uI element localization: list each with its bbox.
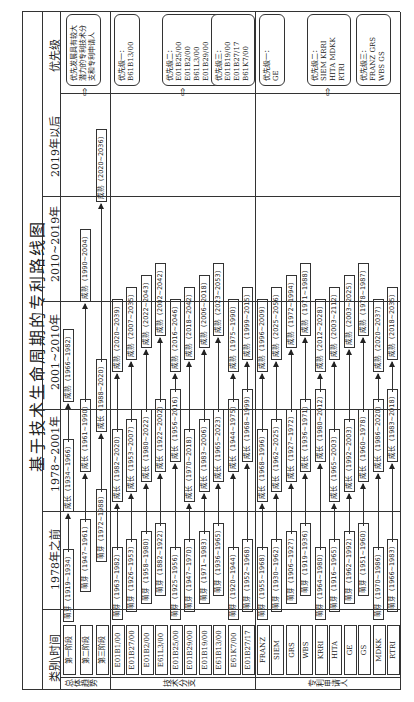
priority-arrow-icon: ⇨ — [80, 88, 90, 96]
row-label-branches: E01B2/00 — [141, 625, 154, 675]
row-label-branches: E01B1/00 — [112, 625, 125, 675]
stage-arrow — [291, 350, 292, 412]
row-label-applicants: KRRI — [315, 625, 328, 675]
section-label-branches: 技术分支 — [163, 678, 195, 689]
stage-box: 成长（1968~1996） — [257, 429, 268, 502]
row-label-applicants: RTRI — [387, 625, 400, 675]
stage-arrow — [233, 374, 234, 402]
stage-box: 成熟（1975~1990） — [228, 299, 239, 372]
stage-arrow — [305, 338, 306, 402]
patent-roadmap-diagram: 基于技术生命周期的专利路线图类别\时间1978年之前1978~2001年2001… — [0, 0, 414, 702]
stage-box: 成长（1980~2012） — [315, 389, 326, 462]
stage-box: 成长（1988~2020） — [96, 359, 107, 432]
section-label-applicants: 专利申请人 — [308, 678, 348, 689]
stage-box: 成长（1927~1972） — [286, 409, 297, 482]
stage-arrow — [175, 374, 176, 392]
stage-arrow — [276, 362, 277, 422]
priority-box-1: 优先级一： B61B13/00 — [114, 14, 140, 86]
stage-arrow — [349, 350, 350, 422]
stage-arrow — [218, 338, 219, 412]
row-label-applicants: GRS — [286, 625, 299, 675]
stage-box: 成长（1922~2002） — [155, 399, 166, 472]
stage-box: 成熟（2020~2039） — [112, 299, 123, 372]
section-label-overall: 总体趋势 — [65, 678, 97, 689]
stage-box: 萌芽（1952~1968） — [242, 539, 253, 612]
stage-box: 成熟（2016~2046） — [170, 299, 181, 372]
stage-box: 成熟（2022~2043） — [141, 275, 152, 348]
stage-box: 成长（1962~2025） — [271, 419, 282, 492]
stage-box: 成长（1992~2003） — [344, 419, 355, 492]
row-label-branches: E01B19/00 — [199, 625, 212, 675]
row-label-branches: E61K7/00 — [228, 625, 241, 675]
stage-box: 成长（1961~1990） — [80, 399, 91, 472]
stage-box: 成长（1934~1966） — [63, 439, 74, 512]
stage-box: 萌芽（1906~1927） — [286, 531, 297, 604]
stage-box: 成熟（1971~1988） — [300, 263, 311, 336]
priority-arrow-icon: ⇨ — [178, 88, 188, 96]
stage-box: 成长（1968~1999） — [242, 389, 253, 462]
stage-arrow — [146, 484, 147, 534]
stage-arrow — [247, 362, 248, 392]
priority-box-2: 优先级二： SIEM KRRI HITA MDKK RTRI — [307, 14, 351, 86]
stage-box: 成熟（2020~2037） — [373, 299, 384, 372]
stage-box: 萌芽（1916~1965） — [329, 539, 340, 612]
stage-box: 萌芽（1919~1936） — [300, 523, 311, 596]
stage-box: 萌芽（1947~1970） — [184, 539, 195, 612]
stage-arrow — [378, 374, 379, 402]
stage-box: 成熟（2023~2053） — [213, 263, 224, 336]
stage-box: 成长（1983~2018） — [387, 389, 398, 462]
row-label-branches: E01B27/00 — [126, 625, 139, 675]
stage-box: 成熟（1966~1982） — [63, 329, 74, 402]
stage-box: 萌芽（1951~1960） — [358, 523, 369, 596]
stage-box: 成长（1956~2016） — [170, 389, 181, 462]
stage-arrow — [349, 494, 350, 534]
stage-box: 萌芽（1962~1992） — [344, 531, 355, 604]
stage-arrow — [320, 374, 321, 392]
stage-arrow — [262, 374, 263, 432]
priority-arrow-icon: ⇨ — [323, 88, 333, 96]
stage-box: 成长（1965~2023） — [213, 409, 224, 482]
stage-arrow — [392, 464, 393, 542]
stage-arrow — [305, 474, 306, 526]
stage-box: 成熟（2012~2028） — [315, 299, 326, 372]
stage-arrow — [291, 484, 292, 534]
period-divider — [42, 409, 400, 410]
stage-box: 成长（1982~2020） — [112, 429, 123, 502]
period-divider — [42, 511, 400, 512]
stage-arrow — [85, 304, 86, 402]
row-label-branches: E61B13/00 — [213, 625, 226, 675]
row-label-branches: E61L3/00 — [155, 625, 168, 675]
stage-arrow — [233, 474, 234, 550]
stage-arrow — [378, 474, 379, 550]
priority-box-1: 优先级一： GE — [259, 14, 285, 86]
row-label-applicants: HITA — [329, 625, 342, 675]
stage-box: 成熟（1972~1994） — [286, 275, 297, 348]
stage-arrow — [204, 494, 205, 534]
stage-box: 成熟（1978~1987） — [358, 263, 369, 336]
frame-top — [22, 12, 23, 690]
stage-box: 成熟（1990~2004） — [80, 229, 91, 302]
stage-arrow — [247, 464, 248, 542]
stage-box: 成长（1936~1971） — [300, 399, 311, 472]
period-divider — [42, 609, 400, 610]
stage-box: 萌芽（1958~1980） — [141, 531, 152, 604]
priority-box: 优先发展具有较大潜力的专利技术分支和专利申请人 — [66, 14, 101, 86]
frame-bottom — [400, 12, 401, 690]
stage-box: 萌芽（1966~1983） — [387, 539, 398, 612]
stage-box: 成熟（2002~2042） — [155, 263, 166, 336]
stage-box: 成长（1960~1978） — [358, 409, 369, 482]
frame-right — [22, 11, 400, 12]
stage-arrow — [392, 362, 393, 392]
stage-box: 成熟（2003~2112） — [329, 287, 340, 360]
stage-box: 成熟（2025~2056） — [271, 287, 282, 360]
stage-box: 成熟（2003~2025） — [344, 275, 355, 348]
stage-box: 成长（1986~2020） — [373, 399, 384, 472]
stage-box: 萌芽（1930~1962） — [271, 539, 282, 612]
row-label-branches: E01B29/00 — [184, 625, 197, 675]
row-label-applicants: MDKK — [373, 625, 386, 675]
stage-arrow — [276, 494, 277, 542]
row-label-applicants: GE — [344, 625, 357, 675]
stage-box: 萌芽（1882~1922） — [155, 523, 166, 596]
stage-arrow — [131, 362, 132, 422]
period-divider — [42, 301, 400, 302]
